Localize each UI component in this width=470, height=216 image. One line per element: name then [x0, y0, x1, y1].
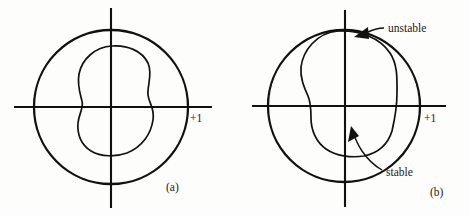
unstable-label: unstable — [388, 22, 426, 34]
panel-a-plot: +1 (a) — [0, 0, 235, 216]
axis-mark-b: +1 — [424, 112, 436, 124]
unstable-leader-line — [366, 28, 384, 33]
panel-caption-a: (a) — [166, 181, 179, 194]
stable-arrow-head — [348, 126, 359, 142]
panel-b-plot: unstable stable +1 (b) — [235, 0, 470, 216]
stable-label: stable — [386, 166, 413, 178]
panel-a: +1 (a) — [0, 0, 235, 216]
panel-caption-b: (b) — [430, 186, 444, 199]
locus-curve-a — [78, 46, 154, 156]
panel-b: unstable stable +1 (b) — [235, 0, 470, 216]
axis-mark-a: +1 — [190, 112, 202, 124]
nyquist-figure: +1 (a) unstable stable +1 (b) — [0, 0, 470, 216]
